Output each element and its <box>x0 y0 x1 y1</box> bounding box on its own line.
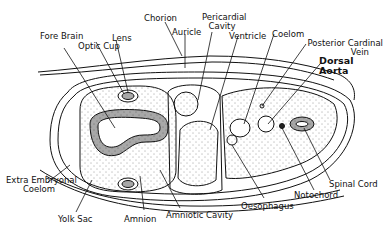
label-yolk-sac: Yolk Sac <box>58 215 93 224</box>
dorsal-aorta-vessel <box>258 116 274 132</box>
ventricle <box>178 121 218 186</box>
label-coelom: Coelom <box>272 30 304 39</box>
label-ventricle: Ventricle <box>229 32 266 41</box>
label-extra-embryonal-coelom: Extra Embryonal Coelom <box>6 176 72 194</box>
label-pericardial-cavity: Pericardial Cavity <box>202 13 242 31</box>
label-dorsal-aorta: Dorsal Aorta <box>319 56 353 76</box>
label-auricle: Auricle <box>172 28 201 37</box>
label-amniotic-cavity: Amniotic Cavity <box>166 211 233 220</box>
auricle <box>174 92 198 116</box>
label-spinal-cord: Spinal Cord <box>329 180 378 189</box>
label-notochord: Notochord <box>294 191 338 200</box>
notochord-circle <box>280 124 285 129</box>
label-optic-cup: Optic Cup <box>78 42 120 51</box>
label-chorion: Chorion <box>144 14 177 23</box>
label-pcv-line1: Posterior Cardinal <box>305 39 383 48</box>
label-amnion: Amnion <box>124 215 156 224</box>
label-oesophagus: Oesophagus <box>241 202 294 211</box>
label-dorsal-line2: Aorta <box>319 66 353 76</box>
label-pericardial-line2: Cavity <box>202 22 242 31</box>
label-eec-line2: Coelom <box>6 185 72 194</box>
coelom-cavity <box>230 119 250 137</box>
label-fore-brain: Fore Brain <box>40 32 83 41</box>
